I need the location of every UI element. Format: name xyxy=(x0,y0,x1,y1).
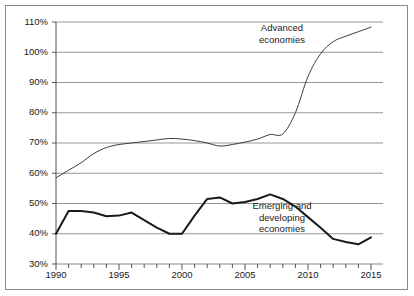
chart-container: 110% 100% 90% 80% 70% 60% 50% 40% 30% 19… xyxy=(0,0,414,296)
ytick-label-100: 100% xyxy=(8,47,48,57)
advanced-label-line-1: Advanced xyxy=(232,22,332,34)
xtick-label-2005: 2005 xyxy=(225,270,265,280)
ytick-label-50: 50% xyxy=(8,198,48,208)
xtick-label-2000: 2000 xyxy=(162,270,202,280)
series-label-advanced-economies: Advanced economies xyxy=(232,22,332,45)
series-line-advanced-economies xyxy=(56,27,371,178)
xtick-label-2015: 2015 xyxy=(351,270,391,280)
emerging-label-line-1: Emerging and xyxy=(227,200,337,212)
ytick-label-60: 60% xyxy=(8,168,48,178)
ytick-label-80: 80% xyxy=(8,107,48,117)
xtick-label-1995: 1995 xyxy=(99,270,139,280)
xtick-label-1990: 1990 xyxy=(36,270,76,280)
ytick-label-40: 40% xyxy=(8,228,48,238)
chart-plot-area xyxy=(0,0,414,296)
ytick-label-30: 30% xyxy=(8,259,48,269)
emerging-label-line-3: economies xyxy=(227,223,337,235)
xtick-label-2010: 2010 xyxy=(288,270,328,280)
ytick-label-110: 110% xyxy=(8,17,48,27)
ytick-label-70: 70% xyxy=(8,137,48,147)
ytick-label-90: 90% xyxy=(8,77,48,87)
emerging-label-line-2: developing xyxy=(227,212,337,224)
advanced-label-line-2: economies xyxy=(232,34,332,46)
series-label-emerging-economies: Emerging and developing economies xyxy=(227,200,337,235)
